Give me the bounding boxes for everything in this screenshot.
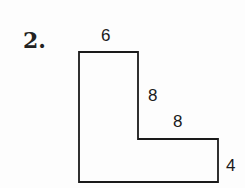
label-top-width: 6 xyxy=(101,26,110,45)
diagram-canvas: 2. 6 8 8 4 xyxy=(0,0,245,188)
l-shape-figure: 2. 6 8 8 4 xyxy=(0,0,245,188)
label-right-height: 4 xyxy=(226,156,235,175)
l-shape-outline xyxy=(79,52,218,182)
label-inner-horizontal: 8 xyxy=(173,112,182,131)
label-inner-vertical: 8 xyxy=(148,86,157,105)
problem-number: 2. xyxy=(23,27,46,53)
